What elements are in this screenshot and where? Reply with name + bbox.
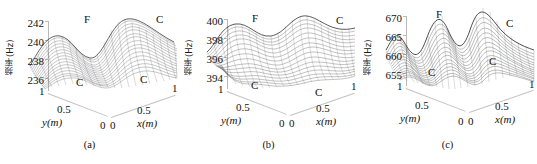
y-axis-title: y(m) xyxy=(400,112,420,124)
surface-mesh-b xyxy=(205,8,357,94)
annotation-c-top-right: C xyxy=(506,17,513,29)
annotation-c-bottom-left: C xyxy=(76,76,83,88)
panel-caption-b: (b) xyxy=(179,139,358,150)
annotation-f: F xyxy=(436,8,442,20)
y-axis-tick-0: 0 xyxy=(279,117,285,129)
y-axis-title: y(m) xyxy=(42,116,62,128)
x-axis-title: x(m) xyxy=(495,113,515,125)
panel-c: 频率(Hz) 670 665 660 655 xyxy=(358,0,537,164)
x-axis-title: x(m) xyxy=(137,117,157,129)
x-axis-tick-05: 0.5 xyxy=(316,102,330,114)
y-axis-tick-0: 0 xyxy=(458,115,464,127)
annotation-c-top-right: C xyxy=(336,14,343,26)
x-axis-tick-0: 0 xyxy=(289,117,295,129)
annotation-c-bottom-left: C xyxy=(428,66,435,78)
annotation-c-bottom-right: C xyxy=(489,55,496,67)
y-axis-title: y(m) xyxy=(221,114,241,126)
annotation-c-bottom-right: C xyxy=(315,86,322,98)
x-axis-tick-05: 0.5 xyxy=(495,100,509,112)
y-axis-tick-0: 0 xyxy=(100,119,106,131)
panel-b: 频率(Hz) 400 398 396 394 xyxy=(179,0,358,164)
y-axis-tick-05: 0.5 xyxy=(57,103,71,115)
annotation-f: F xyxy=(84,13,90,25)
y-axis-tick-05: 0.5 xyxy=(236,101,250,113)
x-axis-tick-1: 1 xyxy=(172,82,178,94)
x-axis-tick-05: 0.5 xyxy=(137,104,151,116)
annotation-c-top-right: C xyxy=(156,13,163,25)
x-axis-tick-0: 0 xyxy=(468,115,474,127)
y-axis-tick-1: 1 xyxy=(397,80,403,92)
x-axis-tick-0: 0 xyxy=(110,119,116,131)
figure-three-mode-shapes: 频率(Hz) 242 240 238 236 xyxy=(0,0,537,164)
x-axis-tick-1: 1 xyxy=(351,80,357,92)
x-axis-title: x(m) xyxy=(316,115,336,127)
panel-caption-c: (c) xyxy=(358,139,537,150)
x-axis-tick-1: 1 xyxy=(529,78,535,90)
annotation-c-bottom-left: C xyxy=(251,79,258,91)
annotation-c-bottom-right: C xyxy=(140,73,147,85)
panel-caption-a: (a) xyxy=(0,139,179,150)
y-axis-tick-1: 1 xyxy=(218,83,224,95)
annotation-f: F xyxy=(252,12,258,24)
panel-a: 频率(Hz) 242 240 238 236 xyxy=(0,0,179,164)
y-axis-tick-1: 1 xyxy=(39,85,45,97)
y-axis-tick-05: 0.5 xyxy=(415,99,429,111)
